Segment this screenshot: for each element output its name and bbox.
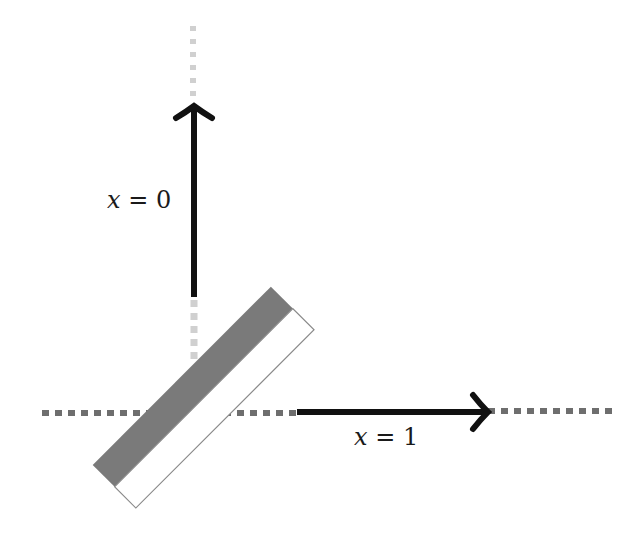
label-variable: x	[107, 186, 121, 214]
horizontal-arrow-label: x = 1	[354, 423, 418, 451]
label-value: = 0	[121, 186, 172, 214]
label-value: = 1	[368, 423, 419, 451]
vertical-arrow	[176, 106, 212, 297]
label-variable: x	[354, 423, 368, 451]
vertical-arrow-label: x = 0	[107, 186, 171, 214]
diagram-canvas	[0, 0, 643, 534]
beam-splitter-plate	[93, 287, 314, 508]
